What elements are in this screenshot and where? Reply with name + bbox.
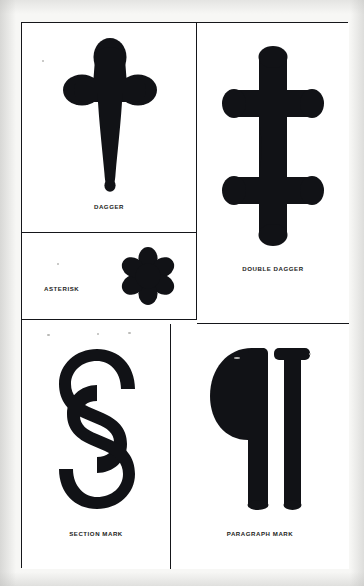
asterisk-icon [110,243,186,309]
panel-section-mark: SECTION MARK [22,324,171,569]
panel-label-paragraph-mark: PARAGRAPH MARK [171,530,349,537]
plate-outer-frame: DAGGER [21,22,348,568]
panel-label-double-dagger: DOUBLE DAGGER [197,265,349,272]
panel-asterisk: ASTERISK [22,233,197,320]
double-dagger-icon [197,37,349,255]
panel-label-dagger: DAGGER [22,203,196,210]
panel-label-section-mark: SECTION MARK [22,530,170,537]
dagger-icon [22,31,197,203]
section-mark-icon [22,338,171,520]
panel-double-dagger: DOUBLE DAGGER [197,23,349,324]
panel-label-asterisk: ASTERISK [22,285,79,292]
paragraph-mark-icon [171,342,349,518]
panel-dagger: DAGGER [22,23,197,233]
plate-page: DAGGER [0,0,364,586]
panel-paragraph-mark: PARAGRAPH MARK [171,324,349,569]
